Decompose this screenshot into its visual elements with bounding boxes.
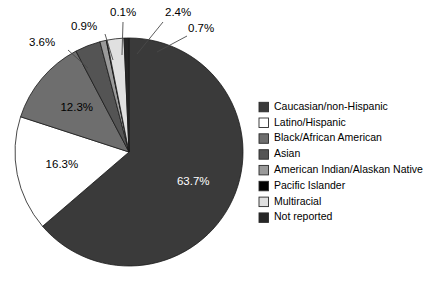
- chart-legend: Caucasian/non-HispanicLatino/HispanicBla…: [259, 100, 423, 223]
- legend-swatch: [259, 213, 269, 223]
- pie-slice-value-label: 0.7%: [188, 22, 214, 34]
- legend-swatch: [259, 102, 269, 112]
- legend-item-label: Latino/Hispanic: [274, 116, 346, 128]
- legend-swatch: [259, 197, 269, 207]
- legend-item-label: Black/African American: [274, 131, 382, 143]
- pie-slice-value-label: 3.6%: [29, 36, 55, 48]
- pie-chart-svg: 63.7%16.3%12.3% 3.6%0.9%0.1%2.4%0.7% Cau…: [0, 0, 441, 284]
- legend-item-label: Asian: [274, 147, 300, 159]
- legend-swatch: [259, 118, 269, 128]
- pie-slice-value-label: 16.3%: [46, 158, 79, 170]
- legend-item-label: Pacific Islander: [274, 179, 346, 191]
- legend-swatch: [259, 150, 269, 160]
- pie-slice-value-label: 0.1%: [110, 6, 136, 18]
- legend-item-label: Caucasian/non-Hispanic: [274, 100, 388, 112]
- pie-chart-figure: 63.7%16.3%12.3% 3.6%0.9%0.1%2.4%0.7% Cau…: [0, 0, 441, 284]
- pie-slice-value-label: 2.4%: [165, 6, 191, 18]
- pie-slice-value-label: 63.7%: [177, 175, 210, 187]
- pie-slice-value-label: 12.3%: [60, 101, 93, 113]
- legend-item-label: Not reported: [274, 210, 333, 222]
- pie-slice-value-label: 0.9%: [71, 20, 97, 32]
- legend-swatch: [259, 181, 269, 191]
- pie-slices-group: [15, 38, 243, 266]
- legend-item-label: Multiracial: [274, 195, 321, 207]
- legend-item-label: American Indian/Alaskan Native: [274, 163, 423, 175]
- legend-swatch: [259, 134, 269, 144]
- legend-swatch: [259, 165, 269, 175]
